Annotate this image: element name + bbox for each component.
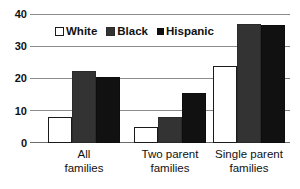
y-axis: 40 30 20 10 0: [0, 0, 27, 189]
bar-hispanic-single-parent-families: [261, 25, 285, 143]
legend-item-white: White: [55, 26, 97, 38]
y-tick-label-40: 40: [3, 9, 27, 20]
bar-white-single-parent-families: [213, 66, 237, 143]
legend-label-hispanic: Hispanic: [166, 26, 214, 38]
x-category-line-1: Single parent: [207, 147, 291, 161]
x-category-label-single-parent-families: Single parent families: [207, 147, 291, 176]
bar-black-two-parent-families: [158, 117, 182, 143]
bar-hispanic-all-families: [96, 77, 120, 143]
legend-label-white: White: [66, 26, 97, 38]
chart-legend: White Black Hispanic: [52, 25, 217, 39]
x-category-line-2: families: [42, 161, 126, 175]
x-category-line-1: Two parent: [128, 147, 212, 161]
white-square-icon: [55, 27, 64, 36]
x-category-line-2: families: [128, 161, 212, 175]
x-category-line-2: families: [207, 161, 291, 175]
y-tick-label-10: 10: [3, 106, 27, 117]
legend-item-black: Black: [106, 26, 148, 38]
x-axis: All families Two parent families Single …: [30, 147, 290, 189]
x-category-label-two-parent-families: Two parent families: [128, 147, 212, 176]
bar-black-all-families: [72, 71, 96, 143]
legend-item-hispanic: Hispanic: [157, 26, 214, 38]
dark-gray-square-icon: [106, 27, 115, 36]
bar-white-two-parent-families: [134, 127, 158, 143]
y-tick-label-20: 20: [3, 73, 27, 84]
x-category-line-1: All: [42, 147, 126, 161]
y-tick-label-30: 30: [3, 41, 27, 52]
bar-white-all-families: [48, 117, 72, 143]
bar-hispanic-two-parent-families: [182, 93, 206, 143]
black-square-icon: [157, 28, 164, 35]
bar-chart: 40 30 20 10 0 White: [0, 0, 300, 189]
legend-label-black: Black: [117, 26, 148, 38]
bar-black-single-parent-families: [237, 24, 261, 143]
y-tick-label-0: 0: [3, 138, 27, 149]
x-category-label-all-families: All families: [42, 147, 126, 176]
bar-group-single-parent-families: [213, 14, 285, 143]
